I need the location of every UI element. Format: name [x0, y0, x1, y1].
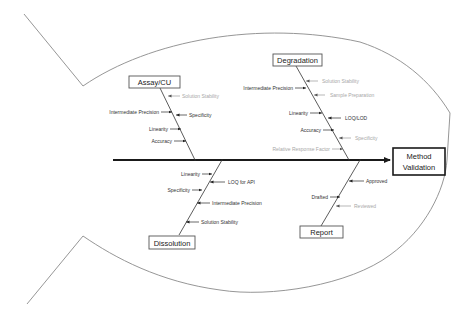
cause-report-drafted: Drafted — [312, 194, 329, 200]
cause-dissolution-intermediate-precision: Intermediate Precision — [212, 200, 262, 206]
branch-dissolution: Dissolution Linearity LOQ for API Specif… — [149, 159, 262, 249]
effect-line2: Validation — [403, 163, 435, 172]
cause-dissolution-linearity: Linearity — [181, 171, 200, 177]
cause-assay-linearity: Linearity — [149, 126, 168, 132]
cause-degradation-intermediate-precision: Intermediate Precision — [243, 85, 293, 91]
cause-assay-specificity: Specificity — [189, 112, 212, 118]
effect-box: Method Validation — [393, 148, 445, 175]
cause-report-approved: Approved — [366, 178, 388, 184]
branch-assay: Assay/CU Solution Stability Intermediate… — [109, 76, 219, 161]
bone-report — [321, 160, 360, 226]
cause-assay-accuracy: Accuracy — [151, 138, 172, 144]
fish-head — [83, 113, 450, 292]
fish-tail-upper — [24, 14, 83, 86]
cause-degradation-loq-lod: LOQ/LOD — [345, 115, 368, 121]
fish-tail-lower — [27, 236, 83, 304]
cause-degradation-specificity: Specificity — [355, 135, 378, 141]
cause-report-reviewed: Reviewed — [354, 203, 376, 209]
category-label-assay: Assay/CU — [138, 78, 171, 87]
cause-degradation-accuracy: Accuracy — [300, 127, 321, 133]
cause-dissolution-loq-for-api: LOQ for API — [228, 179, 255, 185]
effect-line1: Method — [406, 152, 431, 161]
cause-degradation-relative-response-factor: Relative Response Factor — [272, 146, 330, 152]
cause-degradation-solution-stability: Solution Stability — [322, 78, 359, 84]
cause-degradation-linearity: Linearity — [289, 110, 308, 116]
category-label-report: Report — [310, 228, 333, 237]
fishbone-diagram: Method Validation Assay/CU Solution Stab… — [0, 0, 471, 310]
branch-degradation: Degradation Solution Stability Intermedi… — [243, 54, 378, 161]
branch-report: Report Approved Drafted Reviewed — [300, 159, 388, 238]
cause-degradation-sample-preparation: Sample Preparation — [330, 92, 374, 98]
cause-assay-intermediate-precision: Intermediate Precision — [109, 109, 159, 115]
fish-body-upper — [83, 33, 450, 113]
cause-dissolution-specificity: Specificity — [167, 187, 190, 193]
cause-dissolution-solution-stability: Solution Stability — [201, 219, 238, 225]
category-label-dissolution: Dissolution — [154, 239, 191, 248]
cause-assay-solution-stability: Solution Stability — [182, 93, 219, 99]
category-label-degradation: Degradation — [277, 56, 318, 65]
